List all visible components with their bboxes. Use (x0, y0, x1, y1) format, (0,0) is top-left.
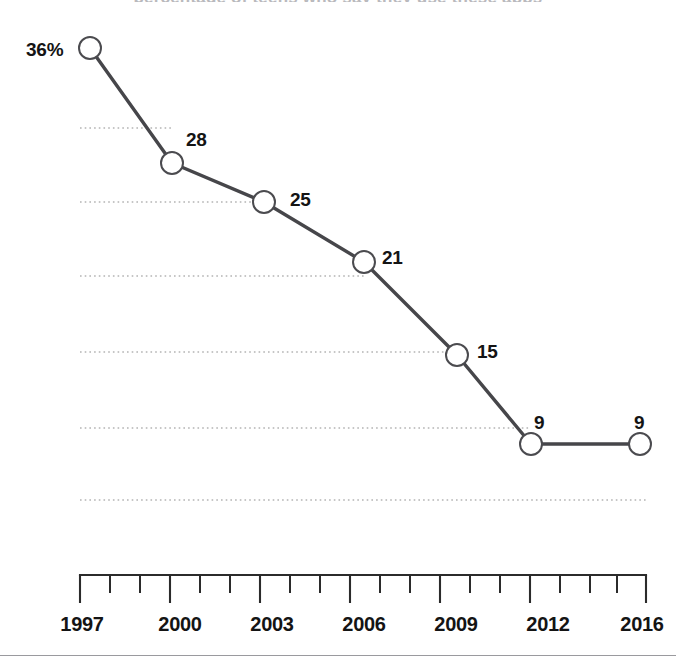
data-point-2009[interactable] (446, 344, 468, 366)
point-label-2000: 28 (186, 130, 207, 149)
data-point-1997[interactable] (79, 37, 101, 59)
data-point-2000[interactable] (161, 152, 183, 174)
point-label-2006: 21 (382, 248, 403, 267)
axis-label-2006: 2006 (342, 614, 385, 634)
data-point-2003[interactable] (253, 191, 275, 213)
series-line (90, 48, 640, 444)
line-chart: percentage of teens who say they use the… (0, 0, 676, 668)
axis-label-2003: 2003 (250, 614, 293, 634)
point-label-2009: 15 (477, 342, 498, 361)
data-point-2006[interactable] (353, 251, 375, 273)
point-label-2016: 9 (634, 413, 644, 432)
data-point-2012[interactable] (520, 433, 542, 455)
point-label-2012: 9 (534, 413, 544, 432)
x-axis (80, 575, 646, 603)
point-label-2003: 25 (290, 190, 311, 209)
axis-label-2016: 2016 (620, 614, 663, 634)
axis-label-2000: 2000 (158, 614, 201, 634)
axis-label-2009: 2009 (434, 614, 477, 634)
data-point-2016[interactable] (629, 433, 651, 455)
footer-divider (0, 655, 676, 656)
point-label-1997: 36% (26, 40, 63, 59)
chart-plot-area (0, 0, 676, 668)
axis-label-1997: 1997 (60, 614, 103, 634)
data-markers (79, 37, 651, 455)
axis-label-2012: 2012 (526, 614, 569, 634)
